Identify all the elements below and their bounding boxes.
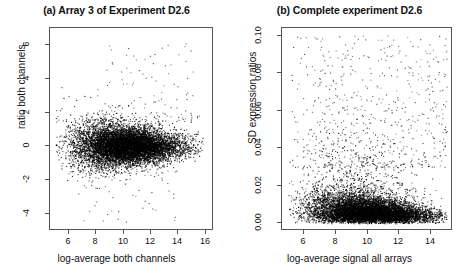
panel-b-xtick-label: 6 xyxy=(300,236,305,246)
panel-a-plot-area xyxy=(49,27,213,230)
panel-a-xtick xyxy=(123,230,124,234)
panel-b-ytick xyxy=(277,72,281,73)
panel-a-xaxis-label: log-average both channels xyxy=(0,253,233,264)
panel-a-xtick-label: 8 xyxy=(92,236,97,246)
panel-a-xtick xyxy=(205,230,206,234)
panel-b-ytick xyxy=(277,110,281,111)
panel-b-xtick xyxy=(303,230,304,234)
panel-b-ytick xyxy=(277,185,281,186)
panel-a-ytick-label: 0 xyxy=(21,128,31,162)
panel-a-ytick-label: -4 xyxy=(21,196,31,230)
panel-a-ytick xyxy=(45,44,49,45)
panel-b-ytick xyxy=(277,35,281,36)
panel-b-ytick-label: 0.00 xyxy=(253,205,263,239)
panel-a-xtick xyxy=(68,230,69,234)
panel-b-ytick-label: 0.02 xyxy=(253,168,263,202)
panel-b-title: (b) Complete experiment D2.6 xyxy=(233,4,466,16)
panel-b: (b) Complete experiment D2.6 681012140.0… xyxy=(233,0,466,275)
panel-a-xtick-label: 6 xyxy=(65,236,70,246)
panel-a-ytick xyxy=(45,112,49,113)
panel-a-ytick xyxy=(45,213,49,214)
figure-container: (a) Array 3 of Experiment D2.6 681012141… xyxy=(0,0,466,275)
panel-a-ytick-label: -2 xyxy=(21,162,31,196)
panel-a-xtick-label: 12 xyxy=(145,236,155,246)
panel-b-yaxis-label: SD expression ratios xyxy=(247,52,258,144)
panel-b-xtick-label: 14 xyxy=(425,236,435,246)
panel-b-ytick xyxy=(277,147,281,148)
panel-a-ytick xyxy=(45,145,49,146)
panel-b-plot-area xyxy=(281,27,452,230)
panel-a-xtick-label: 16 xyxy=(200,236,210,246)
panel-a-ytick xyxy=(45,78,49,79)
panel-b-xtick-label: 10 xyxy=(362,236,372,246)
panel-b-xtick-label: 12 xyxy=(393,236,403,246)
panel-a-xtick-label: 10 xyxy=(118,236,128,246)
panel-b-scatter-points xyxy=(282,28,452,230)
panel-b-ytick xyxy=(277,222,281,223)
panel-a-scatter-points xyxy=(50,28,213,230)
panel-b-xtick-label: 8 xyxy=(332,236,337,246)
panel-b-xtick xyxy=(430,230,431,234)
panel-b-xaxis-label: log-average signal all arrays xyxy=(233,253,466,264)
panel-a-ytick xyxy=(45,179,49,180)
panel-b-xtick xyxy=(335,230,336,234)
panel-a: (a) Array 3 of Experiment D2.6 681012141… xyxy=(0,0,233,275)
panel-a-xtick xyxy=(150,230,151,234)
panel-a-xtick xyxy=(95,230,96,234)
panel-a-xtick xyxy=(177,230,178,234)
panel-b-xtick xyxy=(398,230,399,234)
panel-a-xtick-label: 14 xyxy=(172,236,182,246)
panel-b-xtick xyxy=(367,230,368,234)
panel-a-yaxis-label: ratio both channels xyxy=(16,44,27,129)
panel-a-title: (a) Array 3 of Experiment D2.6 xyxy=(0,4,233,16)
panel-b-ytick-label: 0.10 xyxy=(253,18,263,52)
